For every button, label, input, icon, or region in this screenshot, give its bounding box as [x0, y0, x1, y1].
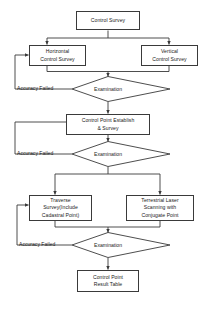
edge-label-accuracy-failed-1-text: Accuracy Failed — [17, 85, 53, 91]
diamond-label-examination-1: Examination — [78, 86, 138, 92]
node-traverse-survey-line2: Survey(Include — [43, 204, 78, 211]
node-terrestrial-laser-scanning-line3: Conjugate Point — [142, 212, 179, 219]
edge-label-accuracy-failed-3-text: Accuracy Failed — [19, 241, 55, 247]
node-control-point-result-table-line2: Result Table — [94, 281, 123, 288]
node-control-point-establish[interactable]: Control Point Establish & Survey — [66, 114, 150, 135]
edge-label-accuracy-failed-2: Accuracy Failed — [17, 150, 53, 156]
node-terrestrial-laser-scanning-line1: Terrestrial Laser — [141, 197, 178, 204]
edge-label-accuracy-failed-2-text: Accuracy Failed — [17, 150, 53, 156]
edge-label-accuracy-failed-3: Accuracy Failed — [19, 241, 55, 247]
node-control-survey[interactable]: Control Survey — [76, 11, 140, 30]
node-horizontal-control-survey[interactable]: Horizontal Control Survey — [29, 45, 86, 66]
diamond-label-examination-2-text: Examination — [94, 151, 122, 157]
node-terrestrial-laser-scanning-line2: Scanning with — [144, 204, 176, 211]
node-horizontal-control-survey-line2: Control Survey — [40, 56, 74, 63]
node-traverse-survey-line1: Traverse — [50, 197, 70, 204]
flowchart-canvas: Control Survey Horizontal Control Survey… — [0, 0, 216, 309]
node-horizontal-control-survey-line1: Horizontal — [46, 48, 69, 55]
diamond-label-examination-2: Examination — [78, 151, 138, 157]
node-control-point-establish-line1: Control Point Establish — [82, 117, 135, 124]
diamond-label-examination-1-text: Examination — [94, 86, 122, 92]
node-terrestrial-laser-scanning[interactable]: Terrestrial Laser Scanning with Conjugat… — [126, 195, 194, 221]
node-traverse-survey-line3: Cadastral Point) — [42, 212, 79, 219]
node-traverse-survey[interactable]: Traverse Survey(Include Cadastral Point) — [29, 195, 92, 221]
node-vertical-control-survey-line2: Control Survey — [152, 56, 186, 63]
node-control-point-result-table[interactable]: Control Point Result Table — [77, 270, 139, 292]
node-control-survey-line1: Control Survey — [91, 17, 125, 24]
diamond-label-examination-3: Examination — [78, 242, 138, 248]
node-control-point-result-table-line1: Control Point — [93, 274, 123, 281]
node-vertical-control-survey[interactable]: Vertical Control Survey — [141, 45, 198, 66]
node-control-point-establish-line2: & Survey — [97, 125, 118, 132]
node-vertical-control-survey-line1: Vertical — [161, 48, 178, 55]
edge-label-accuracy-failed-1: Accuracy Failed — [17, 85, 53, 91]
diamond-label-examination-3-text: Examination — [94, 242, 122, 248]
